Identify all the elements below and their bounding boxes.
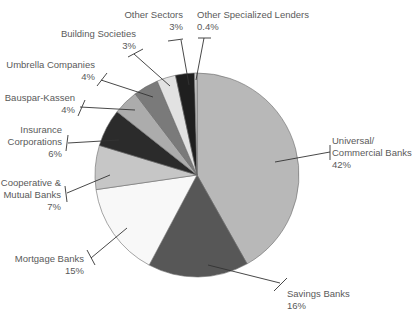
pie-chart: Universal/Commercial Banks42%Savings Ban… [0,0,412,316]
leader-tick [65,186,67,202]
slice-name: Building Societies [61,28,136,39]
slice-name: Commercial Banks [332,147,412,158]
slice-percent: 6% [48,148,62,159]
leader-line [134,54,170,86]
slice-label: Mortgage Banks15% [15,253,85,276]
slice-name: Mutual Banks [3,189,61,200]
slice-label: Universal/Commercial Banks42% [332,135,412,170]
slice-name: Other Sectors [124,9,183,20]
slice-label: Cooperative &Mutual Banks7% [1,177,62,212]
slice-name: Bauspar-Kassen [5,92,75,103]
pie-slices [95,73,299,277]
slice-percent: 3% [169,21,183,32]
slice-name: Savings Banks [287,288,350,299]
slice-percent: 7% [47,201,61,212]
leader-tick [78,100,85,116]
slice-percent: 0.4% [197,21,219,32]
slice-name: Cooperative & [1,177,62,188]
leader-tick [274,278,287,291]
leader-tick [97,73,107,86]
slice-name: Universal/ [332,135,375,146]
slice-label: Other Specialized Lenders0.4% [197,9,309,32]
slice-label: Savings Banks16% [287,288,350,311]
slice-label: Building Societies3% [61,28,137,51]
slice-name: Other Specialized Lenders [197,9,309,20]
leader-tick [66,135,68,151]
slice-name: Insurance [20,124,62,135]
slice-percent: 4% [61,104,75,115]
slice-percent: 4% [81,71,95,82]
slice-percent: 15% [65,265,85,276]
slice-name: Corporations [8,136,63,147]
slice-percent: 3% [122,40,136,51]
slice-label: InsuranceCorporations6% [8,124,63,159]
leader-tick [87,250,95,265]
slice-label: Umbrella Companies4% [6,59,95,82]
slice-name: Umbrella Companies [6,59,95,70]
slice-label: Bauspar-Kassen4% [5,92,76,115]
slice-name: Mortgage Banks [15,253,84,264]
slice-percent: 42% [332,159,352,170]
slice-percent: 16% [287,300,307,311]
